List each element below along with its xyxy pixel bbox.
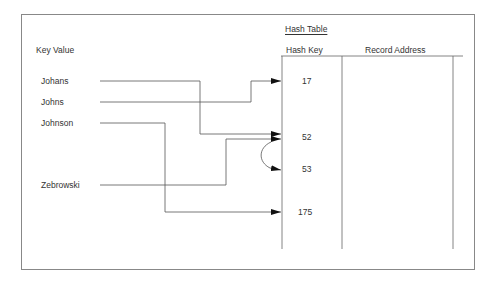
key-zebrowski: Zebrowski [41, 181, 80, 190]
hash-key-53: 53 [302, 165, 311, 174]
arrow-zebrowski-to-52 [100, 139, 281, 185]
arrow-johns-to-17 [100, 81, 281, 102]
arrow-johnson-to-175 [100, 123, 281, 212]
connector-lines [0, 0, 494, 292]
hash-key-175: 175 [298, 208, 312, 217]
key-johans: Johans [41, 77, 68, 86]
key-johnson: Johnson [41, 119, 73, 128]
hash-key-header: Hash Key [286, 46, 323, 55]
arrow-johans-to-52 [100, 81, 281, 134]
hash-table-title: Hash Table [285, 25, 327, 34]
hash-key-52: 52 [302, 133, 311, 142]
record-address-header: Record Address [365, 46, 425, 55]
hash-key-17: 17 [302, 77, 311, 86]
collision-arrow-52-to-53 [261, 142, 281, 170]
key-johns: Johns [41, 98, 64, 107]
key-value-header: Key Value [36, 46, 74, 55]
